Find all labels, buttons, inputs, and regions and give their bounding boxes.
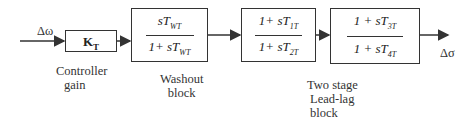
leadlag-block-1: 1+ sT1T 1+ sT2T xyxy=(241,8,316,62)
input-signal-label: Δω xyxy=(37,24,53,38)
washout-block: sTWT 1+ sTWT xyxy=(131,8,208,62)
washout-label: Washout block xyxy=(160,72,203,100)
leadlag-block-2: 1 + sT3T 1 + sT4T xyxy=(330,8,420,64)
leadlag-label: Two stage Lead-lag block xyxy=(307,78,358,120)
controller-gain-block: KT xyxy=(65,30,117,52)
output-signal-label: Δσ xyxy=(440,46,455,60)
gain-symbol: K xyxy=(83,34,93,49)
controller-label: Controller gain xyxy=(56,64,107,92)
